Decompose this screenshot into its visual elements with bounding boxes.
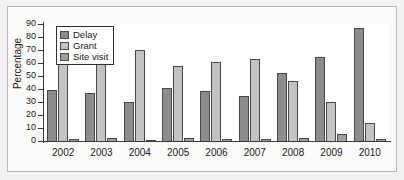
bar-group — [274, 24, 312, 141]
y-axis-tick — [38, 141, 43, 142]
bar-delay-2010 — [354, 28, 364, 141]
legend-label: Grant — [73, 41, 97, 51]
bar-group — [312, 24, 350, 141]
x-axis-tick-label: 2004 — [121, 147, 159, 163]
y-axis-tick — [38, 76, 43, 77]
figure-container: 9080706050403020100 Percentage 200220032… — [0, 0, 404, 180]
x-axis-tick-labels: 200220032004200520062007200820092010 — [44, 147, 389, 163]
bar-grant-2003 — [96, 60, 106, 141]
y-axis-tick — [38, 115, 43, 116]
bar-delay-2007 — [239, 96, 249, 142]
bar-delay-2002 — [47, 90, 57, 141]
bar-group — [121, 24, 159, 141]
legend-item-delay: Delay — [60, 29, 108, 40]
bar-grant-2004 — [135, 50, 145, 141]
bar-delay-2004 — [124, 102, 134, 141]
x-axis-tick-label: 2010 — [351, 147, 389, 163]
y-axis-title: Percentage — [12, 14, 23, 114]
bar-delay-2006 — [200, 91, 210, 141]
x-axis-tick-label: 2008 — [274, 147, 312, 163]
y-axis-tick — [38, 24, 43, 25]
legend-swatch-icon — [60, 53, 69, 61]
legend-label: Site visit — [73, 52, 108, 62]
legend-item-site-visit: Site visit — [60, 51, 108, 62]
y-axis-tick — [38, 37, 43, 38]
bar-grant-2009 — [326, 102, 336, 141]
legend-swatch-icon — [60, 31, 69, 39]
bar-site-visit-2010 — [376, 139, 386, 141]
bar-delay-2009 — [315, 57, 325, 142]
bar-site-visit-2008 — [299, 138, 309, 141]
y-axis-tick — [38, 128, 43, 129]
bar-site-visit-2007 — [261, 139, 271, 141]
bar-delay-2008 — [277, 73, 287, 141]
y-axis-tick — [38, 63, 43, 64]
x-axis-line — [43, 141, 391, 142]
bar-site-visit-2003 — [107, 138, 117, 141]
x-axis-tick-label: 2003 — [82, 147, 120, 163]
legend-label: Delay — [73, 30, 97, 40]
chart-legend: DelayGrantSite visit — [56, 26, 114, 65]
y-axis-tick-label: 10 — [0, 123, 36, 132]
bar-site-visit-2002 — [69, 139, 79, 141]
bar-site-visit-2004 — [146, 140, 156, 141]
bar-site-visit-2005 — [184, 138, 194, 141]
bar-grant-2007 — [250, 59, 260, 141]
y-axis-tick — [38, 102, 43, 103]
bar-grant-2010 — [365, 123, 375, 141]
bar-delay-2003 — [85, 93, 95, 141]
bar-grant-2006 — [211, 62, 221, 141]
x-axis-tick-label: 2009 — [312, 147, 350, 163]
bar-site-visit-2009 — [337, 134, 347, 141]
y-axis-tick-label: 0 — [0, 136, 36, 145]
x-axis-tick-label: 2002 — [44, 147, 82, 163]
bar-delay-2005 — [162, 88, 172, 141]
bar-group — [236, 24, 274, 141]
bar-grant-2008 — [288, 81, 298, 141]
legend-swatch-icon — [60, 42, 69, 50]
bar-grant-2002 — [58, 63, 68, 141]
x-axis-tick-label: 2007 — [236, 147, 274, 163]
x-axis-tick-label: 2006 — [197, 147, 235, 163]
bar-group — [159, 24, 197, 141]
legend-item-grant: Grant — [60, 40, 108, 51]
bar-site-visit-2006 — [222, 139, 232, 141]
bar-group — [351, 24, 389, 141]
y-axis-tick — [38, 89, 43, 90]
x-axis-tick-label: 2005 — [159, 147, 197, 163]
y-axis-tick — [38, 50, 43, 51]
bar-group — [197, 24, 235, 141]
bar-grant-2005 — [173, 66, 183, 141]
